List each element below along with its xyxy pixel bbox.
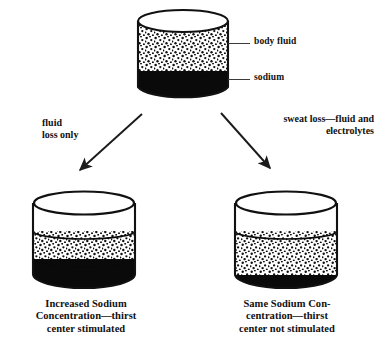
- branch-arrows: [0, 0, 381, 349]
- left-branch-label-line1: fluid: [42, 117, 138, 129]
- left-branch-label-line2: loss only: [42, 129, 138, 141]
- bottom-left-caption-line2: Concentration—thirst: [6, 310, 166, 322]
- right-branch-label-line1: sweat loss—fluid and: [222, 113, 374, 125]
- right-branch-label: sweat loss—fluid and electrolytes: [222, 113, 374, 137]
- bottom-left-caption-line1: Increased Sodium: [6, 298, 166, 310]
- bottom-left-caption: Increased Sodium Concentration—thirst ce…: [6, 298, 166, 335]
- left-branch-label: fluid loss only: [42, 117, 138, 141]
- bottom-right-beaker: [232, 189, 340, 293]
- bottom-right-caption-line1: Same Sodium Con-: [201, 298, 373, 310]
- bottom-right-caption-line2: centration—thirst: [201, 310, 373, 322]
- bottom-right-caption: Same Sodium Con- centration—thirst cente…: [201, 298, 373, 335]
- diagram-canvas: body fluid sodium fluid loss only sweat …: [0, 0, 381, 349]
- bottom-left-caption-line3: center stimulated: [6, 323, 166, 335]
- bottom-left-beaker: [30, 189, 138, 293]
- right-branch-label-line2: electrolytes: [222, 125, 374, 137]
- bottom-right-caption-line3: center not stimulated: [201, 323, 373, 335]
